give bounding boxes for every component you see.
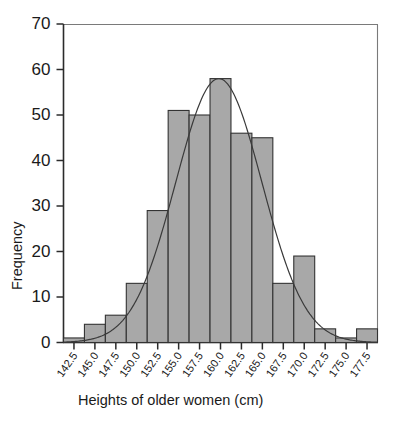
y-tick-label: 70 (32, 14, 51, 33)
histogram-figure: 010203040506070 142.5145.0147.5150.0152.… (0, 0, 396, 424)
y-tick-label: 10 (32, 287, 51, 306)
x-tick-label: 175.0 (326, 350, 352, 379)
y-tick-label: 50 (32, 105, 51, 124)
y-axis-ticks (57, 24, 64, 343)
x-tick-label: 142.5 (54, 350, 80, 379)
x-tick-label: 157.5 (180, 350, 206, 379)
x-tick-label: 147.5 (96, 350, 122, 379)
histogram-bar (210, 79, 231, 343)
x-tick-label: 167.5 (263, 350, 289, 379)
histogram-bar (294, 256, 315, 342)
x-tick-label: 145.0 (75, 350, 101, 379)
histogram-bar (252, 138, 273, 343)
y-tick-label: 40 (32, 151, 51, 170)
histogram-bar (147, 211, 168, 343)
x-tick-label: 160.0 (201, 350, 227, 379)
chart-canvas: 010203040506070 142.5145.0147.5150.0152.… (0, 0, 396, 424)
x-axis-title: Heights of older women (cm) (78, 392, 263, 408)
y-tick-label: 30 (32, 196, 51, 215)
x-tick-label: 150.0 (117, 350, 143, 379)
y-axis-title: Frequency (9, 221, 25, 290)
x-tick-label: 172.5 (305, 350, 331, 379)
y-tick-label: 60 (32, 60, 51, 79)
histogram-bar (315, 329, 336, 343)
histogram-bar (126, 283, 147, 342)
x-axis-ticks (74, 343, 367, 350)
x-tick-label: 162.5 (221, 350, 247, 379)
histogram-bars (64, 79, 378, 343)
histogram-bar (189, 115, 210, 343)
histogram-bar (231, 133, 252, 342)
x-tick-label: 155.0 (159, 350, 185, 379)
x-tick-label: 165.0 (242, 350, 268, 379)
histogram-bar (273, 283, 294, 342)
x-tick-label: 170.0 (284, 350, 310, 379)
y-axis-tick-labels: 010203040506070 (32, 14, 51, 352)
x-tick-label: 177.5 (347, 350, 373, 379)
y-tick-label: 0 (41, 333, 50, 352)
histogram-bar (357, 329, 378, 343)
x-tick-label: 152.5 (138, 350, 164, 379)
y-tick-label: 20 (32, 242, 51, 261)
x-axis-tick-labels: 142.5145.0147.5150.0152.5155.0157.5160.0… (54, 350, 373, 379)
